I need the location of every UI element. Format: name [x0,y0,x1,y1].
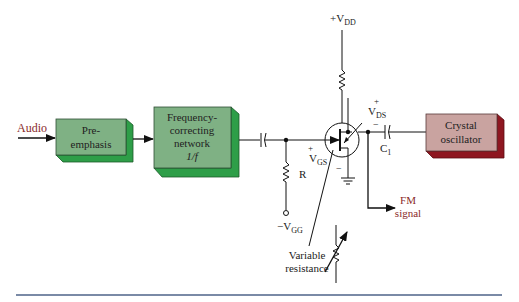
freq-line2: correcting [170,124,215,136]
ground-icon [341,178,355,184]
annotation-line1: Variable [289,249,326,261]
vgs-label: VGS [309,152,327,167]
vds-label: VDS [368,105,386,120]
freq-line3: network [174,137,211,149]
variable-resistor-icon [325,225,347,283]
vgg-label: −VGG [277,220,303,235]
freq-line1: Frequency- [167,111,217,123]
audio-input-label: Audio [17,121,47,135]
drain-resistor-icon [339,70,345,90]
vdd-label: +VDD [330,12,356,27]
vgs-minus: − [336,163,342,174]
crystal-line2: oscillator [441,133,482,145]
resistor-r-label: R [299,168,307,180]
pre-emphasis-block: Pre- emphasis [56,119,133,162]
vgg-terminal [284,211,289,216]
freq-line4: 1/f [186,150,200,162]
frequency-correcting-block: Frequency- correcting network 1/f [154,107,239,177]
crystal-oscillator-block: Crystal oscillator [426,114,504,158]
pre-emphasis-line2: emphasis [71,138,112,150]
annotation-line2: resistance [285,262,328,274]
resistor-r-icon [283,162,289,182]
crystal-line1: Crystal [445,119,477,131]
vds-minus: − [373,119,379,130]
pre-emphasis-line1: Pre- [82,124,101,136]
fm-label: FM [400,194,416,206]
signal-label: signal [395,207,421,219]
c1-label: C1 [380,142,391,157]
fm-modulator-diagram: Audio Pre- emphasis Frequency- correctin… [0,0,519,302]
